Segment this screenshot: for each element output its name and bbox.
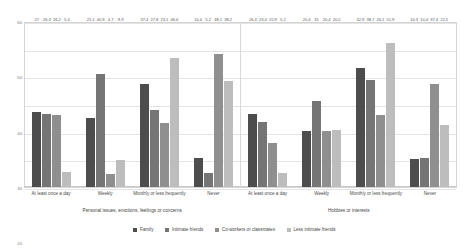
bar-value-label: 5,2: [280, 18, 286, 22]
bar-value-label: 40,9: [97, 18, 105, 22]
bar[interactable]: 40,9: [96, 74, 105, 187]
bar[interactable]: 26,3: [42, 114, 51, 187]
bar[interactable]: 22,5: [440, 125, 449, 187]
bar[interactable]: 37,4: [430, 84, 439, 187]
bar-value-label: 37,4: [430, 18, 438, 22]
bar-value-label: 46,6: [170, 18, 178, 22]
bar-slot: 37,4: [430, 23, 439, 187]
grouped-bar-chart: 0102030405060 2726,326,25,425,140,94,79,…: [0, 0, 469, 250]
bar-value-label: 20,5: [333, 18, 341, 22]
bar-value-label: 38,2: [224, 18, 232, 22]
chart-legend: FamilyIntimate friendsCo-workers or clas…: [0, 228, 469, 233]
legend-label: Family: [140, 228, 154, 233]
legend-item[interactable]: Family: [133, 228, 153, 233]
bar-slot: 20,4: [302, 23, 311, 187]
bar[interactable]: 37,4: [140, 84, 149, 187]
bar-value-label: 10,4: [194, 18, 202, 22]
panel-title: Personal issues, emotions, feelings or c…: [24, 209, 241, 214]
bar-slot: 5,2: [204, 23, 213, 187]
bar-value-label: 51,9: [386, 18, 394, 22]
y-axis-tick-label: 40: [17, 132, 22, 136]
bar[interactable]: 9,9: [116, 160, 125, 187]
bar[interactable]: 5,2: [278, 173, 287, 187]
bar[interactable]: 5,4: [62, 172, 71, 187]
bar-group: 42,938,726,151,9: [349, 23, 403, 187]
bar[interactable]: 26,1: [376, 115, 385, 187]
bar[interactable]: 5,2: [204, 173, 213, 187]
bar-group: 2726,326,25,4: [25, 23, 79, 187]
bar-slot: 23,4: [258, 23, 267, 187]
bar-value-label: 20,4: [303, 18, 311, 22]
category-label: Never: [186, 189, 240, 211]
bar[interactable]: 10,4: [194, 158, 203, 187]
bar-slot: 42,9: [356, 23, 365, 187]
bar[interactable]: 27: [32, 112, 41, 187]
bar[interactable]: 48,1: [214, 54, 223, 187]
bar-group: 10,310,437,422,5: [402, 23, 456, 187]
bar-slot: 10,4: [420, 23, 429, 187]
legend-label: Less intimate friends: [293, 228, 335, 233]
bar-slot: 48,1: [214, 23, 223, 187]
bar-slot: 10,3: [410, 23, 419, 187]
bar-slot: 40,9: [96, 23, 105, 187]
bar-value-label: 37,4: [140, 18, 148, 22]
bar-slot: 26,3: [42, 23, 51, 187]
bar-value-label: 4,7: [108, 18, 114, 22]
y-axis-tick-label: 50: [17, 76, 22, 80]
bar[interactable]: 46,6: [170, 58, 179, 187]
bar[interactable]: 38,2: [224, 81, 233, 187]
bar[interactable]: 51,9: [386, 43, 395, 187]
panel-title: Hobbies or interests: [241, 209, 458, 214]
legend-item[interactable]: Intimate friends: [165, 228, 203, 233]
bar-slot: 38,2: [224, 23, 233, 187]
legend-item[interactable]: Co-workers or classmates: [215, 228, 275, 233]
bar-slot: 10,4: [194, 23, 203, 187]
bar-value-label: 22,5: [440, 18, 448, 22]
category-label: At least once a day: [241, 189, 295, 211]
legend-swatch-icon: [287, 228, 291, 232]
bar-value-label: 23,4: [259, 18, 267, 22]
bar[interactable]: 25,1: [86, 118, 95, 187]
legend-item[interactable]: Less intimate friends: [287, 228, 336, 233]
bar-slot: 9,9: [116, 23, 125, 187]
bar[interactable]: 26,4: [248, 114, 257, 187]
bar[interactable]: 15,9: [268, 143, 277, 187]
bar-value-label: 10,3: [410, 18, 418, 22]
bar[interactable]: 20,5: [332, 130, 341, 187]
bar-slot: 26,2: [52, 23, 61, 187]
bar-value-label: 23,1: [160, 18, 168, 22]
bar-value-label: 38,7: [366, 18, 374, 22]
y-axis-tick-label: 30: [17, 187, 22, 191]
plot-area: 0102030405060 2726,326,25,425,140,94,79,…: [24, 22, 457, 188]
bar-slot: 20,5: [332, 23, 341, 187]
chart-panel: 26,423,415,95,220,43120,420,542,938,726,…: [240, 23, 456, 187]
bar-slot: 25,1: [86, 23, 95, 187]
bar-value-label: 9,9: [118, 18, 124, 22]
legend-label: Intimate friends: [172, 228, 203, 233]
bar[interactable]: 4,7: [106, 174, 115, 187]
bar-group: 10,45,248,138,2: [186, 23, 240, 187]
bar[interactable]: 26,2: [52, 115, 61, 187]
bar-value-label: 20,4: [323, 18, 331, 22]
bar[interactable]: 10,4: [420, 158, 429, 187]
chart-panel: 2726,326,25,425,140,94,79,937,427,823,14…: [25, 23, 240, 187]
bar-slot: 37,4: [140, 23, 149, 187]
bar[interactable]: 38,7: [366, 80, 375, 187]
bar-slot: 15,9: [268, 23, 277, 187]
bar[interactable]: 23,1: [160, 123, 169, 187]
bar-value-label: 25,1: [87, 18, 95, 22]
bar-group: 26,423,415,95,2: [241, 23, 295, 187]
bar[interactable]: 31: [312, 101, 321, 187]
bar[interactable]: 23,4: [258, 122, 267, 187]
bar-value-label: 27: [35, 18, 40, 22]
y-axis-tick-label: 60: [17, 21, 22, 25]
bar-value-label: 31: [314, 18, 319, 22]
bar[interactable]: 42,9: [356, 68, 365, 187]
bar[interactable]: 20,4: [302, 131, 311, 187]
bar-slot: 27: [32, 23, 41, 187]
bar[interactable]: 27,8: [150, 110, 159, 187]
category-label: At least once a day: [24, 189, 78, 211]
bar[interactable]: 20,4: [322, 131, 331, 187]
bar-slot: 22,5: [440, 23, 449, 187]
bar[interactable]: 10,3: [410, 159, 419, 187]
